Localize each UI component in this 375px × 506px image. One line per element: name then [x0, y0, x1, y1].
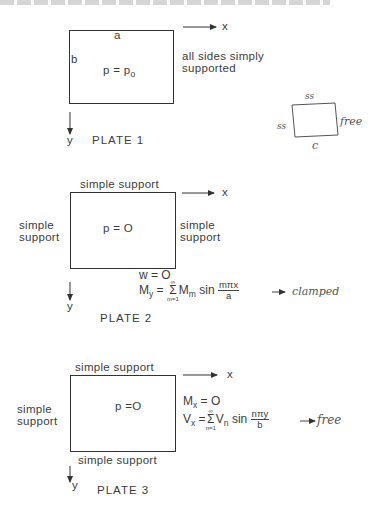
frac-den: a	[218, 291, 239, 301]
plate-3-title: PLATE 3	[97, 484, 149, 497]
sketch-left-label: ss	[277, 121, 286, 131]
fraction: mπxa	[218, 280, 239, 301]
plate-3-outline	[70, 375, 176, 452]
sigma-icon: Σ	[167, 285, 179, 296]
eq-term: V	[216, 412, 224, 426]
sum-lower: m=1	[167, 296, 179, 302]
plate-1-load-text: p = p	[103, 64, 130, 76]
sketch-right-label: free	[340, 115, 362, 128]
eq-fn: sin	[199, 283, 214, 297]
plate-3-top-support: simple support	[75, 361, 154, 374]
plate-2-bc-moment-equation: My = ∞Σm=1Mm sin mπxa	[139, 279, 239, 302]
plate-1-y-axis-label: y	[67, 134, 73, 147]
plate-2-right-support-line2: support	[180, 231, 220, 244]
plate-3-y-axis-label: y	[72, 479, 78, 492]
eq-fn: sin	[232, 412, 247, 426]
eq-lhs: M	[183, 394, 193, 408]
sum-lower: n=1	[206, 425, 216, 431]
fraction: nπyb	[251, 409, 270, 430]
frac-den: b	[251, 420, 270, 430]
plate-3-left-support-line2: support	[17, 415, 57, 428]
plate-1-title: PLATE 1	[92, 134, 144, 147]
plate-1-edge-a-label: a	[114, 29, 121, 42]
eq-lhs: V	[183, 412, 191, 426]
eq-rhs: = O	[201, 394, 221, 408]
eq-term-sub: m	[189, 289, 196, 299]
summation: ∞Σn=1	[206, 408, 216, 431]
eq-sign: =	[199, 412, 206, 426]
eq-lhs-sub: y	[149, 289, 153, 299]
plate-3-x-axis-label: x	[227, 368, 233, 381]
plate-2-y-axis-label: y	[67, 300, 73, 313]
plate-3-bottom-support: simple support	[78, 454, 157, 467]
plate-3-bc-shear-equation: Vx =∞Σn=1Vn sin nπyb	[183, 408, 269, 431]
plate-2-x-axis-label: x	[222, 186, 228, 199]
sigma-icon: Σ	[206, 414, 216, 425]
plate-1-note-line2: supported	[182, 62, 236, 75]
plate-1-load: p = po	[103, 64, 135, 81]
plate-1-load-subscript: o	[130, 69, 135, 79]
plate-1-edge-b-label: b	[71, 53, 78, 66]
plate-3-load: p =O	[115, 400, 141, 413]
eq-lhs: M	[139, 283, 149, 297]
eq-term-sub: n	[224, 418, 229, 428]
plate-2-left-support-line2: support	[19, 231, 59, 244]
plate-2-title: PLATE 2	[100, 312, 152, 325]
plate-2-load: p = O	[103, 222, 133, 235]
sketch-bottom-label: c	[312, 139, 318, 152]
eq-term: M	[179, 283, 189, 297]
plate-2-top-support: simple support	[80, 178, 159, 191]
summation: ∞Σm=1	[167, 279, 179, 302]
plate-2-annotation-clamped: clamped	[292, 285, 339, 298]
sketch-top-label: ss	[305, 91, 314, 101]
plate-3-annotation-free: free	[317, 413, 341, 427]
plate-1-x-axis-label: x	[222, 20, 228, 33]
eq-sign: =	[157, 283, 164, 297]
eq-lhs-sub: x	[191, 418, 195, 428]
